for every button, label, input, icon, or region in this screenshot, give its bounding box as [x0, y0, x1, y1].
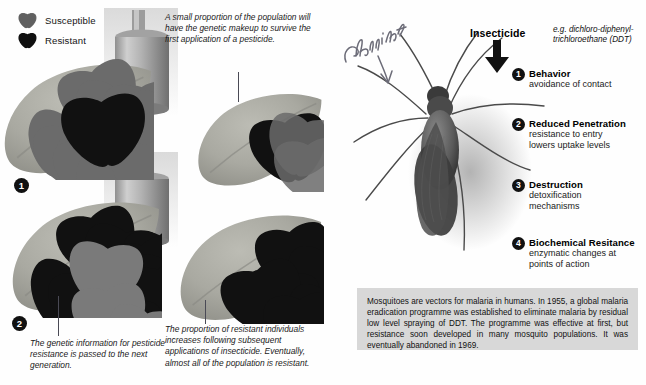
info-box: Mosquitoes are vectors for malaria in hu… [357, 288, 638, 350]
mechanism-detail-4: enzymatic changes atpoints of action [529, 248, 646, 271]
mechanism-item-biochemical-resistance: 4 Biochemical Resitance enzymatic change… [512, 237, 646, 271]
down-arrow-icon [484, 40, 510, 74]
info-box-text: Mosquitoes are vectors for malaria in hu… [357, 288, 638, 352]
stage-badge-2: 2 [12, 316, 27, 331]
leaf-stage-3 [10, 196, 162, 318]
leader-line-bottom-right [205, 300, 206, 324]
mechanism-detail-2: resistance to entrylowers uptake levels [529, 129, 646, 152]
resistant-insect-icon [18, 32, 37, 49]
leaf-stage-4 [178, 212, 324, 324]
leader-line-top-right [238, 72, 239, 102]
handwritten-down-arrow-icon [378, 56, 392, 83]
handwritten-text-christine [345, 24, 406, 62]
diagram-canvas: Susceptible Resistant [0, 0, 646, 385]
mechanism-badge-1: 1 [512, 68, 525, 81]
insecticide-label: Insecticide [470, 27, 525, 39]
mechanism-title-3: Destruction [529, 179, 646, 190]
mechanism-detail-1: avoidance of contact [529, 79, 646, 90]
mechanism-title-1: Behavior [529, 68, 646, 79]
caption-bottom-right: The proportion of resistant individuals … [165, 324, 325, 369]
insecticide-example: e.g. dichloro-diphenyl-trichloroethane (… [553, 25, 645, 46]
mechanism-badge-2: 2 [512, 118, 525, 131]
leaf-stage-2 [196, 88, 324, 192]
leader-line-bottom-left [58, 296, 59, 336]
mechanism-badge-4: 4 [512, 237, 525, 250]
caption-bottom-left: The genetic information for pesticide re… [30, 338, 180, 372]
mechanism-badge-3: 3 [512, 179, 525, 192]
handwritten-annotation [330, 8, 450, 93]
caption-top-right: A small proportion of the population wil… [165, 12, 317, 46]
mechanism-title-2: Reduced Penetration [529, 118, 646, 129]
mechanism-item-reduced-penetration: 2 Reduced Penetration resistance to entr… [512, 118, 646, 152]
susceptible-insect-icon [18, 12, 37, 29]
legend-label-resistant: Resistant [45, 35, 86, 46]
mechanism-detail-3: detoxificationmechanisms [529, 190, 646, 213]
legend-label-susceptible: Susceptible [45, 15, 96, 26]
mechanism-title-4: Biochemical Resitance [529, 237, 646, 248]
mechanism-item-behavior: 1 Behavior avoidance of contact [512, 68, 646, 90]
leaf-stage-1 [2, 58, 154, 180]
stage-badge-1: 1 [14, 178, 29, 193]
mechanism-item-destruction: 3 Destruction detoxificationmechanisms [512, 179, 646, 213]
